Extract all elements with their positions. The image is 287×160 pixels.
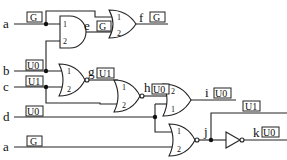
pin-label: 1	[117, 13, 121, 22]
junction-j	[209, 138, 213, 142]
and-gate-e: 1 2	[60, 16, 86, 48]
signal-d: d	[3, 109, 10, 124]
svg-text:U0: U0	[27, 60, 39, 71]
wires	[14, 11, 287, 147]
svg-text:U0: U0	[263, 127, 275, 138]
pin-label: 2	[171, 87, 175, 96]
signal-b: b	[3, 63, 10, 78]
pin-label: 2	[63, 37, 67, 46]
signal-e: e	[84, 18, 90, 33]
pin-label: 2	[122, 101, 126, 110]
svg-text:G: G	[99, 21, 106, 32]
pin-label: 1	[177, 127, 181, 136]
not-gate-k	[226, 132, 244, 148]
value-box-d: U0	[26, 106, 43, 117]
value-box-a-bottom: G	[27, 136, 42, 147]
value-box-f: G	[150, 12, 165, 23]
signal-c: c	[3, 79, 9, 94]
svg-text:G: G	[153, 12, 160, 23]
value-box-k: U0	[262, 127, 279, 138]
wire-c-to-nor-h	[46, 87, 118, 104]
junction-c	[44, 85, 48, 89]
value-box-h: U0	[152, 84, 169, 95]
nor-gate-h: 1 2	[114, 80, 144, 112]
or-gate-f: 1 2	[109, 10, 136, 38]
junction-a	[44, 22, 48, 26]
value-box-j: U1	[243, 101, 260, 112]
svg-text:U0: U0	[215, 88, 227, 99]
nor-gate-j: 1 2	[169, 124, 199, 156]
pin-label: 2	[177, 145, 181, 154]
signal-f: f	[139, 10, 144, 25]
signal-a-bottom: a	[3, 139, 9, 154]
svg-text:G: G	[30, 12, 37, 23]
value-box-g: U1	[97, 68, 114, 79]
pin-label: 1	[171, 105, 175, 114]
value-box-a-top: G	[27, 12, 42, 23]
svg-text:G: G	[30, 136, 37, 147]
junction-b	[44, 69, 48, 73]
value-box-c: U1	[26, 76, 43, 87]
signal-h: h	[144, 80, 151, 95]
pin-label: 2	[117, 29, 121, 38]
signal-g: g	[88, 64, 95, 79]
svg-text:U1: U1	[245, 101, 257, 112]
signal-k: k	[253, 125, 260, 140]
svg-text:U0: U0	[27, 106, 39, 117]
svg-text:U1: U1	[99, 68, 111, 79]
nor-gate-g: 1 2	[59, 64, 89, 96]
svg-text:U0: U0	[153, 84, 165, 95]
pin-label: 1	[122, 83, 126, 92]
value-box-i: U0	[214, 88, 231, 99]
wire-b-to-and	[46, 41, 60, 71]
pin-label: 2	[67, 85, 71, 94]
pin-label: 1	[63, 20, 67, 29]
logic-circuit: 1 2 1 2 1 2 1 2 2 1 1 2 a b c d	[0, 0, 287, 160]
junction-d	[153, 115, 157, 119]
value-box-b: U0	[26, 60, 43, 71]
signal-a-top: a	[3, 16, 9, 31]
pin-label: 1	[67, 67, 71, 76]
signal-i: i	[205, 85, 209, 100]
svg-text:U1: U1	[28, 76, 40, 87]
value-box-e: G	[97, 21, 111, 32]
signal-j: j	[203, 124, 208, 139]
